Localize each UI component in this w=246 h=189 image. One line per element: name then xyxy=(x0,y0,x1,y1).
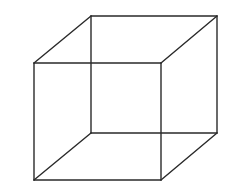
cube-edge-connector-bottom-left xyxy=(34,133,91,180)
necker-cube-diagram xyxy=(0,0,246,189)
cube-edge-connector-top-left xyxy=(34,16,91,63)
cube-edge-connector-top-right xyxy=(161,16,217,63)
cube-wireframe xyxy=(34,16,217,180)
cube-edge-connector-bottom-right xyxy=(161,133,217,180)
